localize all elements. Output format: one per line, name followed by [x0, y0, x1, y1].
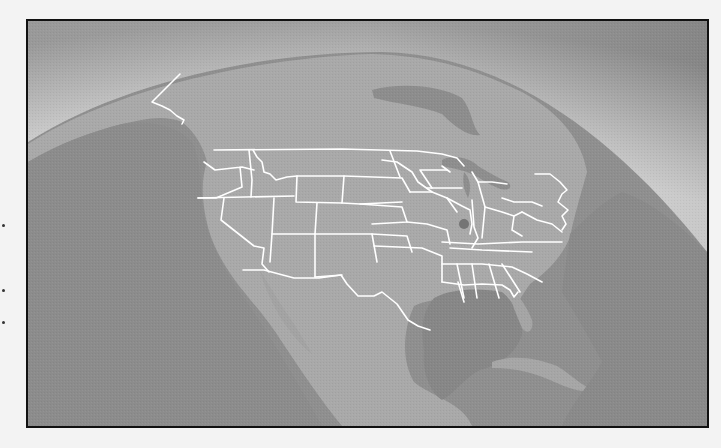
margin-tick [2, 289, 5, 292]
globe-map [28, 21, 707, 426]
map-frame [26, 19, 709, 428]
margin-tick [2, 224, 5, 227]
margin-tick [2, 321, 5, 324]
location-marker [459, 219, 469, 229]
